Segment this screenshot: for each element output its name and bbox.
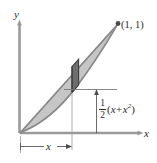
strip-height-label: 1 2 (x+x2) bbox=[99, 99, 135, 120]
fraction-denominator: 2 bbox=[99, 111, 106, 121]
fraction-numerator: 1 bbox=[99, 99, 106, 109]
plus-operator: + bbox=[116, 103, 123, 115]
representative-strip bbox=[72, 59, 79, 92]
x-axis-label: x bbox=[144, 128, 149, 139]
one-half-fraction: 1 2 bbox=[99, 99, 106, 120]
figure-container: y x (1, 1) x 1 2 (x+x2) bbox=[0, 0, 157, 163]
point-marker-1-1 bbox=[116, 21, 121, 26]
y-axis-label: y bbox=[14, 9, 19, 20]
y-axis-arrowhead bbox=[17, 20, 22, 26]
expression-term-1: x bbox=[111, 103, 116, 115]
x-axis-arrowhead bbox=[138, 131, 144, 136]
point-label-1-1: (1, 1) bbox=[121, 20, 144, 31]
x-dimension-label: x bbox=[46, 141, 51, 152]
close-paren: ) bbox=[131, 103, 135, 115]
height-expression: (x+x2) bbox=[107, 104, 135, 115]
x-dimension-arrowhead bbox=[66, 144, 72, 149]
